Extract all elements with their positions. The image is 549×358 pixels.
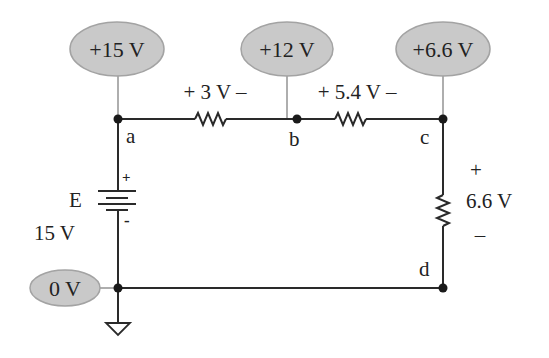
resistor-r3 [437, 195, 449, 226]
r1-drop-label: + 3 V – [184, 80, 248, 104]
wire-right [437, 119, 449, 288]
r3-drop-label: 6.6 V [466, 189, 512, 213]
source-value-label: 15 V [34, 221, 75, 245]
probe-a: +15 V [70, 22, 164, 76]
battery-icon [98, 191, 136, 210]
probe-c: +6.6 V [396, 22, 490, 76]
r2-drop-label: + 5.4 V – [318, 80, 397, 104]
circuit-diagram: +15 V +12 V +6.6 V 0 V + 3 V – + 5.4 V –… [0, 0, 549, 358]
probe-ground-label: 0 V [49, 276, 81, 301]
node-d-dot [439, 284, 448, 293]
node-c-dot [439, 115, 448, 124]
battery-minus-label: - [124, 211, 130, 230]
r3-minus-label: – [474, 223, 486, 247]
node-a-label: a [126, 124, 136, 148]
node-ground-dot [114, 284, 123, 293]
resistor-r2 [335, 113, 366, 125]
node-b-dot [293, 115, 302, 124]
node-a-dot [114, 115, 123, 124]
source-name-label: E [69, 188, 82, 212]
battery-plus-label: + [122, 169, 131, 185]
r3-plus-label: + [470, 158, 482, 182]
probe-b: +12 V [241, 22, 333, 76]
node-b-label: b [289, 127, 300, 151]
resistor-r1 [195, 113, 226, 125]
probe-a-label: +15 V [89, 37, 145, 62]
wire-top [118, 113, 443, 125]
probe-c-label: +6.6 V [413, 37, 474, 62]
node-c-label: c [420, 125, 429, 149]
probe-ground: 0 V [30, 270, 100, 306]
probe-b-label: +12 V [259, 37, 315, 62]
ground-icon [106, 288, 130, 335]
node-d-label: d [419, 257, 430, 281]
